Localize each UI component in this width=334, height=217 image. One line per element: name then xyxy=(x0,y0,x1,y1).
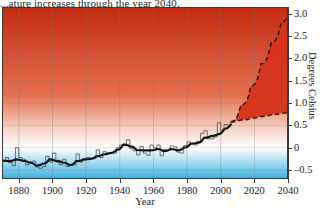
y-tick-label: 0.5 xyxy=(294,120,307,131)
y-tick-mark xyxy=(288,125,292,126)
y-tick-label: 3.0 xyxy=(294,9,307,20)
x-tick-label: 1880 xyxy=(8,186,29,197)
x-tick-mark xyxy=(86,179,87,183)
x-tick-label: 1980 xyxy=(177,186,198,197)
plot-frame xyxy=(2,7,288,179)
y-tick-mark xyxy=(288,14,292,15)
y-tick-label: 2.0 xyxy=(294,53,307,64)
y-tick-mark xyxy=(288,81,292,82)
y-axis: –0.500.51.01.52.02.53.0 Degrees Celsius xyxy=(288,0,334,186)
y-tick-mark xyxy=(288,58,292,59)
y-tick-mark xyxy=(288,170,292,171)
x-tick-label: 2000 xyxy=(210,186,231,197)
x-tick-mark xyxy=(120,179,121,183)
y-tick-mark xyxy=(288,148,292,149)
x-tick-mark xyxy=(52,179,53,183)
x-tick-mark xyxy=(187,179,188,183)
x-tick-label: 1900 xyxy=(42,186,63,197)
x-tick-mark xyxy=(221,179,222,183)
x-tick-mark xyxy=(254,179,255,183)
y-tick-label: 1.5 xyxy=(294,76,307,87)
x-tick-label: 1940 xyxy=(109,186,130,197)
x-tick-label: 1960 xyxy=(143,186,164,197)
y-tick-mark xyxy=(288,103,292,104)
x-tick-label: 2040 xyxy=(278,186,299,197)
y-tick-label: 2.5 xyxy=(294,31,307,42)
x-tick-label: 1920 xyxy=(76,186,97,197)
x-tick-mark xyxy=(153,179,154,183)
y-tick-label: 1.0 xyxy=(294,98,307,109)
climate-chart-figure: ...ature increases through the year 2040… xyxy=(0,0,334,217)
y-axis-line xyxy=(288,7,289,179)
y-tick-label: –0.5 xyxy=(294,165,312,176)
y-axis-title: Degrees Celsius xyxy=(307,52,318,120)
x-axis-title: Year xyxy=(0,196,290,207)
x-axis: 188019001920194019601980200020202040 xyxy=(2,179,292,195)
x-tick-label: 2020 xyxy=(244,186,265,197)
y-tick-mark xyxy=(288,36,292,37)
x-tick-mark xyxy=(19,179,20,183)
plot-area xyxy=(2,7,288,179)
y-tick-label: 0 xyxy=(294,143,299,154)
x-tick-mark xyxy=(288,179,289,183)
